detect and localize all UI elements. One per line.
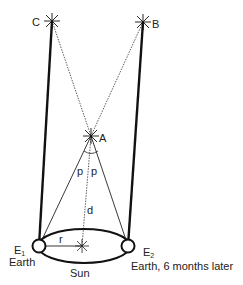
label-earth: Earth	[9, 256, 35, 268]
sun-icon	[75, 239, 89, 253]
label-angle-left: p	[77, 165, 83, 177]
label-e2: E2	[143, 246, 154, 259]
label-earth-6-months-later: Earth, 6 months later	[131, 260, 233, 272]
sightline-e2-b	[128, 22, 143, 246]
label-star-b: B	[152, 18, 159, 30]
earth-e1-circle	[33, 240, 46, 253]
parallax-diagram: C B A p p d r E1 Earth E2 Earth, 6 month…	[0, 0, 243, 285]
star-c-icon	[44, 13, 60, 29]
star-b-icon	[135, 14, 151, 30]
label-distance-d: d	[87, 204, 93, 216]
label-radius-r: r	[59, 233, 63, 245]
label-star-c: C	[32, 16, 40, 28]
label-sun: Sun	[70, 267, 90, 279]
dotted-line-c-a	[52, 21, 91, 136]
label-star-a: A	[99, 132, 107, 144]
star-a-icon	[83, 128, 99, 144]
sightline-e1-c	[39, 21, 52, 246]
dotted-line-b-a	[91, 22, 143, 136]
earth-e2-circle	[122, 240, 135, 253]
label-angle-right: p	[91, 165, 97, 177]
